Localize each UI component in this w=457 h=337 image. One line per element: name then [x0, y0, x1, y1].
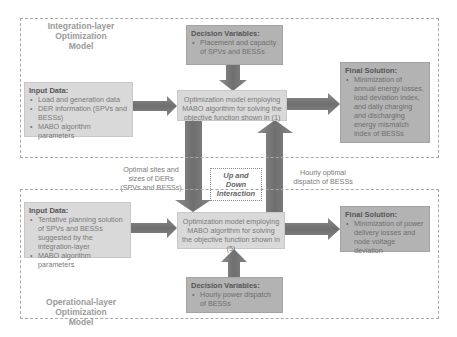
decision-variables-heading: Decision Variables:	[191, 281, 278, 290]
operational-optimization-model-text: Optimization model employing MABO algori…	[182, 217, 280, 253]
integration-final-solution-box: Final Solution: Minimization of annual e…	[340, 62, 430, 143]
input-data-item: MABO algorithm parameters	[38, 122, 128, 140]
final-solution-item: Minimization of annual energy losses, lo…	[354, 75, 425, 138]
input-data-item: MABO algorithm parameters	[38, 251, 126, 269]
final-solution-list: Minimization of annual energy losses, lo…	[345, 75, 425, 138]
final-solution-heading: Final Solution:	[345, 66, 425, 75]
interaction-line1: Up and Down	[214, 171, 258, 189]
decision-variable-item: Placement and capacity of SPVs and BESSs	[200, 38, 278, 56]
operational-layer-title-line1: Operational-layer Optimization	[24, 297, 138, 317]
final-solution-heading: Final Solution:	[345, 210, 425, 219]
integration-layer-title: Integration-layer Optimization Model	[24, 21, 138, 51]
integration-optimization-model-text: Optimization model employing MABO algori…	[182, 95, 281, 122]
input-data-list: Tentative planning solution of SPVs and …	[29, 215, 126, 269]
final-solution-item: Minimization of power delivery losses an…	[354, 219, 425, 255]
integration-layer-title-line1: Integration-layer Optimization	[24, 21, 138, 41]
integration-optimization-model-box: Optimization model employing MABO algori…	[177, 90, 287, 121]
operational-final-solution-box: Final Solution: Minimization of power de…	[340, 206, 430, 252]
decision-variables-heading: Decision Variables:	[191, 29, 278, 38]
operational-decision-variables-box: Decision Variables: Hourly power dispatc…	[186, 277, 283, 313]
input-data-item: Tentative planning solution of SPVs and …	[38, 215, 126, 251]
input-data-list: Load and generation data DER information…	[29, 95, 128, 140]
final-solution-list: Minimization of power delivery losses an…	[345, 219, 425, 255]
integration-input-data-box: Input Data: Load and generation data DER…	[24, 82, 133, 137]
integration-decision-variables-box: Decision Variables: Placement and capaci…	[186, 25, 283, 65]
optimal-sites-label: Optimal sites and sizes of DERs (SPVs an…	[120, 165, 182, 192]
integration-layer-title-line2: Model	[24, 41, 138, 51]
decision-variable-item: Hourly power dispatch of BESSs	[200, 290, 278, 308]
operational-layer-title-line2: Model	[24, 317, 138, 327]
input-data-heading: Input Data:	[29, 206, 126, 215]
input-data-item: DER information (SPVs and BESSs)	[38, 104, 128, 122]
hourly-dispatch-label: Hourly optimal dispatch of BESSs	[290, 168, 356, 186]
decision-variables-list: Placement and capacity of SPVs and BESSs	[191, 38, 278, 56]
input-data-item: Load and generation data	[38, 95, 128, 104]
decision-variables-list: Hourly power dispatch of BESSs	[191, 290, 278, 308]
operational-layer-title: Operational-layer Optimization Model	[24, 297, 138, 327]
operational-input-data-box: Input Data: Tentative planning solution …	[24, 202, 131, 258]
operational-optimization-model-box: Optimization model employing MABO algori…	[177, 212, 285, 249]
input-data-heading: Input Data:	[29, 86, 128, 95]
